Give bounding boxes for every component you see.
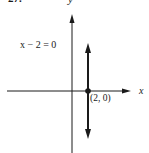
- y-axis-arrow-icon: [70, 14, 75, 23]
- x-axis-label: x: [138, 85, 144, 96]
- y-axis: [70, 14, 75, 153]
- line-down-arrow-icon: [85, 129, 91, 139]
- figure-number: 27.: [8, 0, 22, 4]
- x-axis-arrow-icon: [122, 89, 131, 94]
- y-axis-label: y: [67, 0, 73, 5]
- point-label: (2, 0): [90, 93, 111, 104]
- line-up-arrow-icon: [85, 43, 91, 53]
- graph-canvas: 27. y x x − 2 = 0 (2, 0): [0, 0, 149, 153]
- x-axis: [7, 89, 131, 94]
- equation-label: x − 2 = 0: [20, 39, 56, 50]
